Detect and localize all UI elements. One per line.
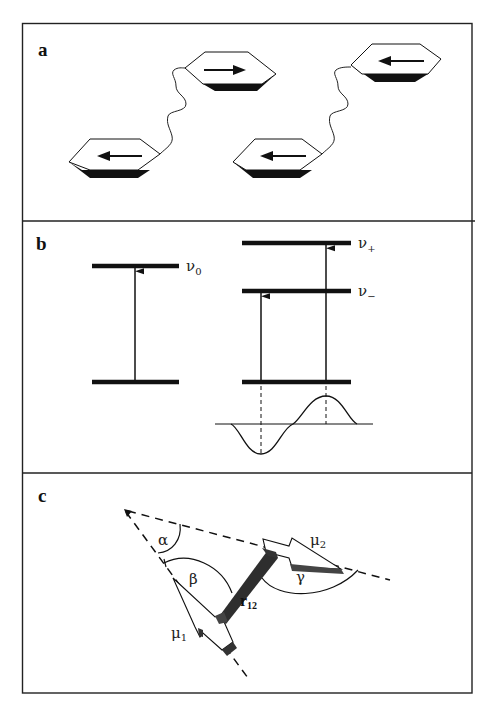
exciton-levels	[242, 243, 351, 382]
panel-b: b ν0 ν+ ν−	[36, 233, 376, 454]
angle-beta-arc	[164, 558, 232, 593]
chromophore-a	[69, 139, 160, 178]
panel-a: a	[38, 39, 441, 178]
label-nu-minus: ν−	[358, 282, 376, 302]
linker-1	[160, 68, 186, 154]
chromophore-d	[233, 139, 322, 178]
chromophore-c	[351, 44, 441, 82]
label-nu0: ν0	[186, 257, 202, 277]
label-nu-plus: ν+	[358, 234, 376, 254]
label-mu1: μ1	[171, 624, 187, 643]
r12-vector	[218, 550, 278, 624]
chromophore-b	[185, 52, 276, 91]
panel-c: c α β μ1 r12 μ2 γ	[38, 485, 390, 678]
panel-label-c: c	[38, 485, 46, 506]
panel-label-b: b	[36, 233, 47, 254]
label-beta: β	[189, 570, 198, 588]
axis-tip-icon	[124, 509, 132, 517]
label-gamma: γ	[296, 568, 305, 586]
cd-couplet	[215, 386, 373, 454]
figure: a	[0, 0, 493, 714]
linker-2	[322, 67, 351, 154]
label-alpha: α	[158, 531, 168, 549]
label-mu2: μ2	[310, 531, 326, 550]
couplet-curve	[231, 396, 357, 454]
panel-label-a: a	[38, 39, 48, 60]
